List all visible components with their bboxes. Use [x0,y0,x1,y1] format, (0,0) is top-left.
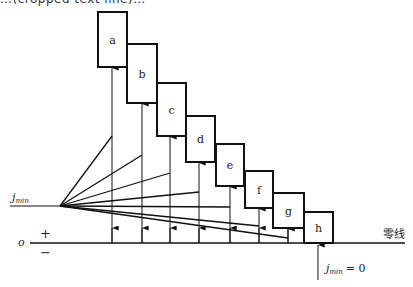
jmin-label: jmin [9,191,29,205]
box-label-e: e [227,159,234,172]
box-label-c: c [168,104,174,117]
box-label-h: h [315,222,322,235]
box-label-b: b [138,68,145,81]
fan-line-a [60,136,112,206]
fit-clearance-diagram: abcdefgh jmin o + − 零线 jmin= 0 [0,0,413,287]
tolerance-boxes: abcdefgh [98,12,333,243]
origin-label: o [18,236,25,249]
box-label-g: g [285,205,292,218]
fan-line-g [60,206,288,238]
jmin-zero-label: jmin= 0 [323,262,366,276]
fan-line-e [60,206,230,207]
zero-line-label: 零线 [383,227,405,241]
fan-line-f [60,206,259,226]
box-label-d: d [197,133,204,146]
box-label-a: a [109,34,116,47]
plus-sign: + [40,226,51,241]
minus-sign: − [40,245,51,260]
fan-line-d [60,192,199,206]
